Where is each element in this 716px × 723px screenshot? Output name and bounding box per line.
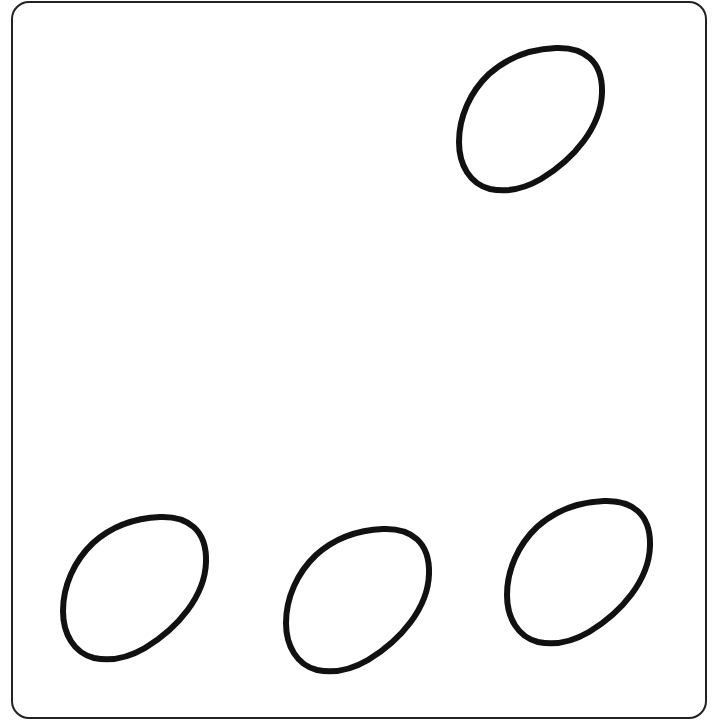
egg-bottom-left-icon (63, 517, 206, 659)
egg-bottom-middle-icon (286, 529, 429, 671)
egg-top-right-icon (459, 48, 602, 190)
egg-bottom-right-icon (507, 501, 650, 643)
eggs-canvas (0, 0, 716, 723)
